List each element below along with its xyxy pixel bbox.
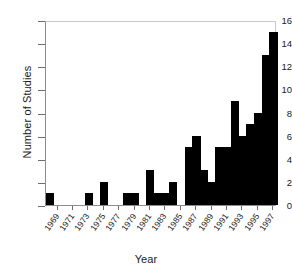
x-axis-tick-label: 1987 <box>181 212 199 232</box>
x-axis-tick <box>257 206 258 210</box>
x-axis-tick <box>118 206 119 210</box>
x-axis-title: Year <box>0 253 292 265</box>
bar <box>131 193 139 205</box>
x-axis-tick <box>226 206 227 210</box>
x-axis-tick-label: 1997 <box>258 212 276 232</box>
bar-series <box>46 22 275 205</box>
y-axis-tick <box>38 114 45 115</box>
x-axis-tick <box>57 206 58 210</box>
x-axis-tick-label: 1981 <box>135 212 153 232</box>
bar <box>100 182 108 205</box>
y-axis-title: Number of Studies <box>21 27 33 197</box>
x-axis-tick-label: 1975 <box>89 212 107 232</box>
x-axis-tick <box>195 206 196 210</box>
x-axis-tick-label: 1983 <box>150 212 168 232</box>
y-axis-tick <box>38 183 45 184</box>
bar-chart-figure: Number of Studies 0246810121416 19691971… <box>0 0 292 273</box>
bar <box>169 182 177 205</box>
x-axis-tick <box>134 206 135 210</box>
y-axis-tick <box>38 21 45 22</box>
bar <box>269 32 277 205</box>
x-axis-tick <box>103 206 104 210</box>
y-axis-tick <box>38 160 45 161</box>
x-axis-tick-label: 1979 <box>120 212 138 232</box>
y-axis-tick <box>38 137 45 138</box>
y-axis-tick <box>38 44 45 45</box>
x-axis-tick <box>272 206 273 210</box>
x-axis-tick <box>180 206 181 210</box>
x-axis-tick-label: 1995 <box>243 212 261 232</box>
x-axis-tick <box>72 206 73 210</box>
bar <box>85 193 93 205</box>
x-axis-tick <box>164 206 165 210</box>
x-axis-tick-label: 1969 <box>43 212 61 232</box>
x-axis-tick <box>211 206 212 210</box>
y-axis-tick <box>38 67 45 68</box>
x-axis-tick-label: 1993 <box>227 212 245 232</box>
y-axis-tick <box>38 90 45 91</box>
x-axis-tick-label: 1977 <box>104 212 122 232</box>
y-axis-tick <box>38 206 45 207</box>
x-axis-tick-label: 1985 <box>166 212 184 232</box>
x-axis-tick <box>149 206 150 210</box>
x-axis-tick-label: 1973 <box>73 212 91 232</box>
plot-area <box>45 21 276 206</box>
x-axis-tick-label: 1989 <box>197 212 215 232</box>
bar <box>46 193 54 205</box>
x-axis-tick <box>87 206 88 210</box>
x-axis-tick-label: 1991 <box>212 212 230 232</box>
x-axis-tick <box>241 206 242 210</box>
x-axis-tick-label: 1971 <box>58 212 76 232</box>
